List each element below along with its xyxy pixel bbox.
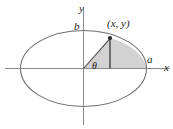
y-axis-label: y	[79, 3, 84, 14]
x-axis-label: x	[164, 62, 169, 73]
point-marker	[108, 36, 112, 40]
semi-major-axis-label: a	[147, 54, 153, 65]
angle-theta-label: θ	[92, 61, 97, 71]
ellipse-figure: y b (x, y) θ a x	[0, 0, 173, 129]
point-coordinate-label: (x, y)	[107, 18, 130, 29]
semi-minor-axis-label: b	[74, 21, 80, 32]
